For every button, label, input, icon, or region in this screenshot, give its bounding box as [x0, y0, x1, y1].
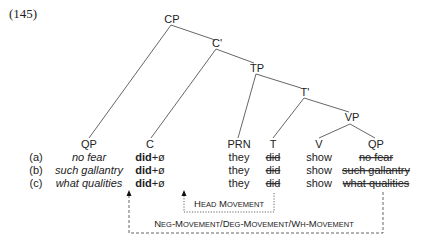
arrowhead-icon: [182, 190, 187, 196]
syntax-tree-diagram: CP C' TP T' VP QP C PRN T V QP (a) no fe…: [0, 0, 423, 245]
node-cp: CP: [164, 13, 179, 25]
node-t-bar: T': [301, 86, 310, 98]
node-tp: TP: [250, 62, 264, 74]
terminal-qp-object: QP: [368, 138, 384, 150]
subject-pronoun: they: [229, 164, 250, 176]
phrasal-movement-label: NEG-MOVEMENT/DEG-MOVEMENT/WH-MOVEMENT: [154, 218, 354, 229]
phrasal-movement-arrow: NEG-MOVEMENT/DEG-MOVEMENT/WH-MOVEMENT: [127, 190, 384, 233]
arrowhead-icon: [127, 190, 132, 196]
branch-tp-prn: [238, 74, 256, 138]
t-trace: did: [266, 177, 281, 189]
example-row-a: (a) no fear did+ø they did show no fear: [29, 151, 393, 163]
head-movement-arrow: HEAD MOVEMENT: [182, 190, 275, 212]
branch-tp-tbar: [256, 74, 301, 88]
branch-vp-v: [319, 124, 350, 138]
terminal-t: T: [270, 138, 277, 150]
verb: show: [306, 177, 332, 189]
branch-cbar-c: [151, 49, 216, 138]
subject-pronoun: they: [229, 151, 250, 163]
terminal-prn: PRN: [227, 138, 250, 150]
branch-cp-qp: [89, 25, 171, 138]
fronted-qp: such gallantry: [55, 164, 124, 176]
fronted-qp: what qualities: [56, 177, 123, 189]
head-movement-label: HEAD MOVEMENT: [194, 198, 264, 209]
qp-trace: no fear: [359, 151, 394, 163]
verb: show: [306, 151, 332, 163]
branch-vp-qp: [350, 124, 375, 138]
example-row-c: (c) what qualities did+ø they did show w…: [30, 177, 410, 189]
t-trace: did: [266, 164, 281, 176]
branch-cp-cbar: [171, 25, 215, 40]
c-head: did+ø: [135, 177, 165, 189]
subject-pronoun: they: [229, 177, 250, 189]
example-row-b: (b) such gallantry did+ø they did show s…: [29, 164, 410, 176]
row-label: (b): [29, 164, 42, 176]
terminal-v: V: [315, 138, 323, 150]
terminal-c: C: [146, 138, 154, 150]
c-head: did+ø: [135, 151, 165, 163]
branch-cbar-tp: [216, 49, 254, 63]
verb: show: [306, 164, 332, 176]
fronted-qp: no fear: [72, 151, 108, 163]
branch-tbar-vp: [304, 98, 349, 112]
c-head: did+ø: [135, 164, 165, 176]
tree-branches: [89, 25, 375, 138]
node-vp: VP: [345, 111, 360, 123]
qp-trace: what qualities: [342, 177, 410, 189]
node-c-bar: C': [212, 37, 222, 49]
row-label: (a): [29, 151, 42, 163]
qp-trace: such gallantry: [342, 164, 410, 176]
branch-tbar-t: [273, 98, 304, 138]
t-trace: did: [266, 151, 281, 163]
terminal-qp: QP: [81, 138, 97, 150]
row-label: (c): [30, 177, 43, 189]
